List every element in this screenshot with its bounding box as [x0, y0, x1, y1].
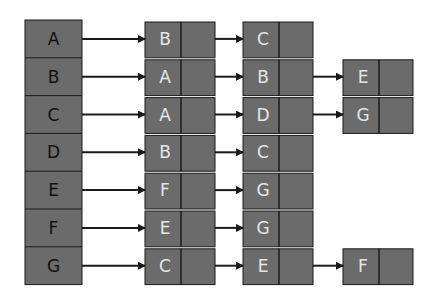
list-node	[145, 173, 215, 209]
list-node	[343, 60, 413, 96]
node-value-b: B	[257, 67, 269, 87]
head-label-f: F	[49, 218, 59, 238]
node-value-g: G	[256, 218, 269, 238]
list-node	[243, 211, 313, 247]
node-value-c: C	[257, 142, 269, 162]
list-node	[145, 60, 215, 96]
head-label-c: C	[48, 105, 60, 125]
node-value-f: F	[160, 180, 170, 200]
node-value-b: B	[159, 142, 171, 162]
node-value-g: G	[256, 180, 269, 200]
head-label-e: E	[48, 180, 59, 200]
node-value-b: B	[159, 29, 171, 49]
list-node	[243, 60, 313, 96]
list-node	[343, 98, 413, 134]
head-label-d: D	[47, 142, 60, 162]
head-label-g: G	[47, 256, 60, 276]
node-value-g: G	[356, 105, 369, 125]
head-label-b: B	[48, 67, 60, 87]
head-label-a: A	[48, 29, 60, 49]
node-value-f: F	[358, 256, 368, 276]
list-node	[243, 98, 313, 134]
list-node	[343, 249, 413, 285]
list-node	[145, 22, 215, 58]
node-value-c: C	[257, 29, 269, 49]
node-value-d: D	[256, 105, 269, 125]
list-node	[243, 135, 313, 171]
adjacency-list-diagram: ABCDEFGBCABEADGBCFGEGCEF	[0, 0, 437, 301]
list-node	[145, 98, 215, 134]
list-node	[243, 249, 313, 285]
list-node	[243, 22, 313, 58]
node-value-c: C	[159, 256, 171, 276]
list-node	[145, 135, 215, 171]
list-node	[145, 211, 215, 247]
node-value-a: A	[159, 105, 171, 125]
node-value-a: A	[159, 67, 171, 87]
node-value-e: E	[258, 256, 269, 276]
list-node	[243, 173, 313, 209]
node-value-e: E	[160, 218, 171, 238]
list-node	[145, 249, 215, 285]
node-value-e: E	[358, 67, 369, 87]
